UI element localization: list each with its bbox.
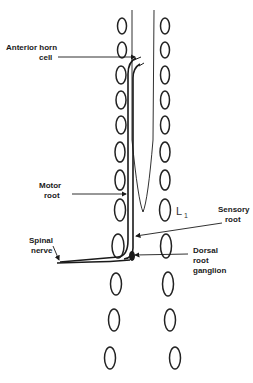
label-motor-root: root xyxy=(44,191,60,200)
label-dorsal-ganglion: ganglion xyxy=(193,266,226,275)
vertebrae-right-column xyxy=(160,18,181,369)
label-sensory: Sensory xyxy=(218,205,250,214)
spinal-nerve-arrow xyxy=(53,246,59,260)
label-sensory-root: root xyxy=(225,215,241,224)
label-motor: Motor xyxy=(39,181,61,190)
spinal-cord-outline xyxy=(132,10,154,212)
label-spinal: Spinal xyxy=(29,236,53,245)
label-dorsal-root: root xyxy=(193,256,209,265)
dorsal-root-ganglion-shape xyxy=(129,251,135,261)
label-segment-L: L xyxy=(176,205,182,217)
sensory-root-arrow xyxy=(136,223,222,236)
label-spinal-nerve: nerve xyxy=(31,246,53,255)
label-anterior-horn: Anterior horn xyxy=(6,43,57,52)
label-dorsal: Dorsal xyxy=(193,246,218,255)
label-segment-sub: 1 xyxy=(184,212,188,219)
spinal-nerve-root-diagram: Anterior horn cell Motor root Sensory ro… xyxy=(0,0,253,383)
vertebrae-left-column xyxy=(105,18,127,369)
label-anterior-horn-cell: cell xyxy=(39,53,52,62)
dorsal-root-ganglion-arrow xyxy=(135,254,188,255)
motor-root-line xyxy=(60,58,136,262)
